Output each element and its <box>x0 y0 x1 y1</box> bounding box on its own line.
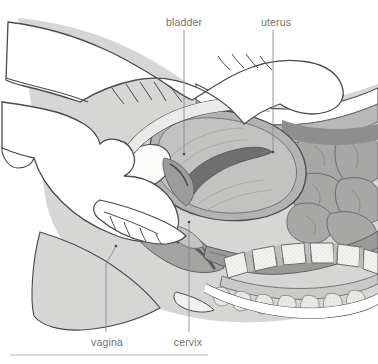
anatomy-illustration <box>0 0 378 364</box>
label-cervix: cervix <box>174 336 202 348</box>
anatomy-figure: bladder uterus vagina cervix <box>0 0 378 364</box>
label-bladder: bladder <box>166 16 202 28</box>
label-vagina: vagina <box>91 336 123 348</box>
label-uterus: uterus <box>261 16 291 28</box>
